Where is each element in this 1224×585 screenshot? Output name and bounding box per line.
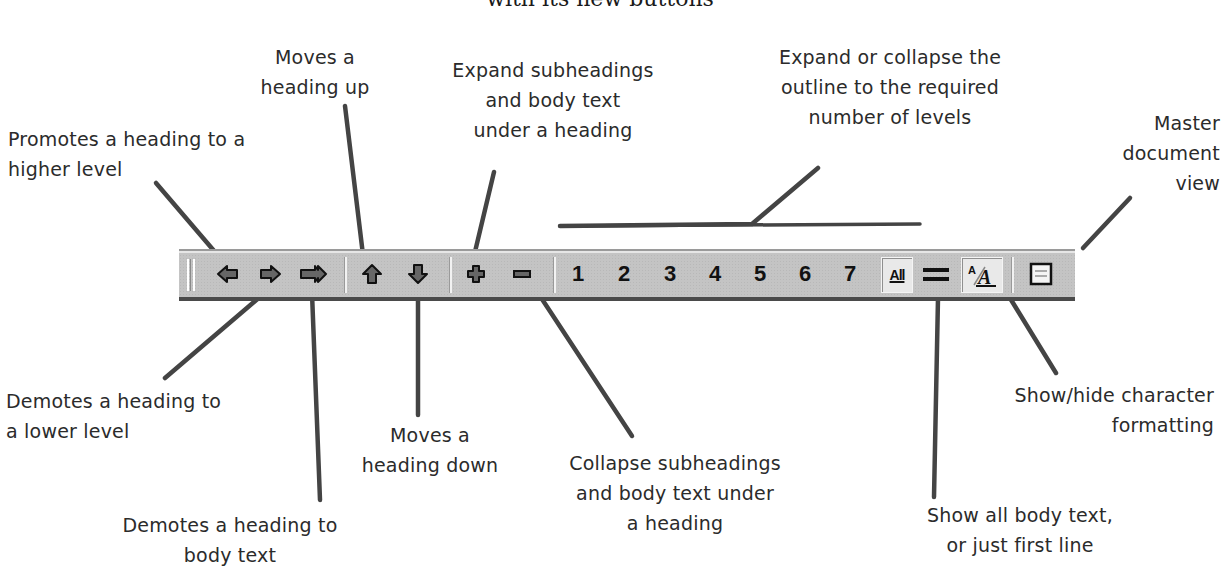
leader-levels: [560, 168, 818, 226]
show-formatting-button[interactable]: A A: [961, 257, 1003, 293]
leader-show-formatting: [1005, 290, 1056, 373]
label-master-document: Master document view: [1060, 108, 1220, 198]
label-promote: Promotes a heading to a higher level: [8, 124, 245, 184]
label-move-up: Moves a heading up: [245, 42, 385, 102]
figure-title: with its new buttons: [380, 0, 820, 11]
label-demote-body: Demotes a heading to body text: [100, 510, 360, 570]
label-collapse: Collapse subheadings and body text under…: [560, 448, 790, 538]
plus-icon: [466, 264, 486, 284]
minus-icon: [512, 264, 532, 284]
label-expand: Expand subheadings and body text under a…: [428, 55, 678, 145]
all-label: All: [890, 267, 905, 283]
leader-demote-body: [312, 293, 320, 500]
show-level-7-button[interactable]: 7: [835, 255, 865, 293]
show-level-6-button[interactable]: 6: [790, 255, 820, 293]
leader-collapse: [538, 293, 632, 436]
leader-move-up: [345, 106, 363, 255]
label-show-first-line: Show all body text, or just first line: [895, 500, 1145, 560]
arrow-up-icon: [361, 263, 383, 285]
show-all-headings-button[interactable]: All: [881, 257, 913, 293]
arrow-down-icon: [407, 263, 429, 285]
move-down-button[interactable]: [401, 255, 435, 293]
leader-master-document: [1083, 198, 1130, 248]
double-line-icon: [921, 264, 951, 284]
show-level-2-button[interactable]: 2: [609, 255, 639, 293]
show-level-4-button[interactable]: 4: [700, 255, 730, 293]
master-document-view-button[interactable]: [1021, 255, 1061, 293]
toolbar-separator: [1011, 257, 1014, 293]
svg-text:A: A: [976, 266, 991, 288]
label-levels: Expand or collapse the outline to the re…: [740, 42, 1040, 132]
arrow-left-icon: [216, 264, 240, 284]
collapse-button[interactable]: [505, 255, 539, 293]
arrow-right-icon: [258, 264, 282, 284]
toolbar-drag-handle[interactable]: [187, 259, 195, 291]
leader-show-first-line: [934, 298, 938, 497]
show-level-3-button[interactable]: 3: [655, 255, 685, 293]
show-level-5-button[interactable]: 5: [745, 255, 775, 293]
toolbar-separator: [449, 257, 452, 293]
show-first-line-only-button[interactable]: [919, 255, 953, 293]
toolbar-separator: [553, 257, 556, 293]
promote-button[interactable]: [211, 255, 245, 293]
master-document-icon: [1029, 262, 1053, 286]
show-level-1-button[interactable]: 1: [563, 255, 593, 293]
leader-expand: [474, 172, 494, 256]
label-move-down: Moves a heading down: [340, 420, 520, 480]
demote-button[interactable]: [253, 255, 287, 293]
text-formatting-icon: A A: [965, 261, 999, 289]
toolbar-separator: [344, 257, 347, 293]
move-up-button[interactable]: [355, 255, 389, 293]
expand-button[interactable]: [459, 255, 493, 293]
outlining-toolbar: 1 2 3 4 5 6 7 All A A: [179, 249, 1075, 301]
demote-to-body-button[interactable]: [295, 255, 331, 293]
label-demote: Demotes a heading to a lower level: [6, 386, 221, 446]
svg-text:A: A: [968, 264, 976, 276]
leader-demote: [165, 290, 268, 378]
label-show-formatting: Show/hide character formatting: [950, 380, 1214, 440]
double-arrow-right-icon: [298, 264, 328, 284]
leader-promote: [156, 183, 215, 252]
